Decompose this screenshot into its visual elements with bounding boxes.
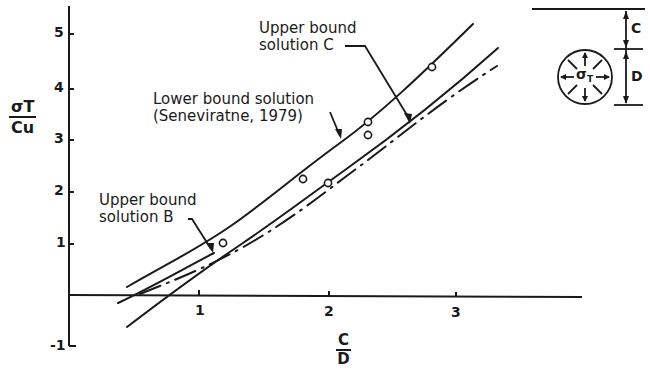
annotation-upper-bound-c-line2: solution C — [259, 37, 356, 54]
data-point — [299, 175, 306, 182]
inset-label-c: C — [631, 20, 641, 36]
y-tick-2: 2 — [54, 182, 64, 198]
annotation-upper-bound-b-line2: solution B — [99, 209, 196, 226]
inset-sigma-symbol: σ — [576, 66, 587, 82]
data-point — [364, 131, 371, 138]
y-tick-neg1: -1 — [50, 337, 66, 353]
curve-upper-bound-c — [127, 24, 473, 287]
y-tick-4: 4 — [54, 79, 64, 95]
annotation-lower-bound: Lower bound solution (Seneviratne, 1979) — [153, 91, 314, 125]
x-axis-label-denominator: D — [336, 351, 351, 368]
arrowhead-upper-b — [206, 243, 214, 253]
annotation-lower-bound-line1: Lower bound solution — [153, 91, 314, 108]
data-point — [428, 63, 435, 70]
y-tick-5: 5 — [54, 24, 64, 40]
inset-sigma-subscript: T — [587, 74, 593, 84]
x-tick-2: 2 — [324, 303, 334, 319]
y-axis-label: σT Cu — [9, 97, 36, 137]
y-axis-label-numerator: σT — [9, 97, 36, 118]
leader-upper-bound-c — [345, 46, 410, 120]
annotation-lower-bound-line2: (Seneviratne, 1979) — [153, 108, 314, 125]
data-point — [219, 239, 226, 246]
inset-arrowheads — [560, 11, 629, 104]
y-tick-1: 1 — [56, 234, 66, 250]
y-axis-label-denominator: Cu — [9, 118, 36, 137]
data-point — [364, 118, 371, 125]
x-tick-1: 1 — [195, 302, 205, 318]
annotation-upper-bound-c: Upper bound solution C — [259, 20, 356, 54]
inset-label-d: D — [631, 68, 643, 84]
x-axis-label-numerator: C — [336, 332, 351, 351]
x-axis — [69, 295, 582, 297]
inset-label-sigma: σT — [576, 66, 593, 84]
chart-canvas — [0, 0, 650, 383]
annotation-upper-bound-c-line1: Upper bound — [259, 20, 356, 37]
data-point — [324, 179, 331, 186]
arrowhead-lower — [335, 129, 342, 139]
x-axis-label: C D — [336, 332, 351, 368]
x-tick-3: 3 — [451, 304, 461, 320]
annotation-upper-bound-b: Upper bound solution B — [99, 192, 196, 226]
y-tick-3: 3 — [54, 130, 64, 146]
annotation-upper-bound-b-line1: Upper bound — [99, 192, 196, 209]
